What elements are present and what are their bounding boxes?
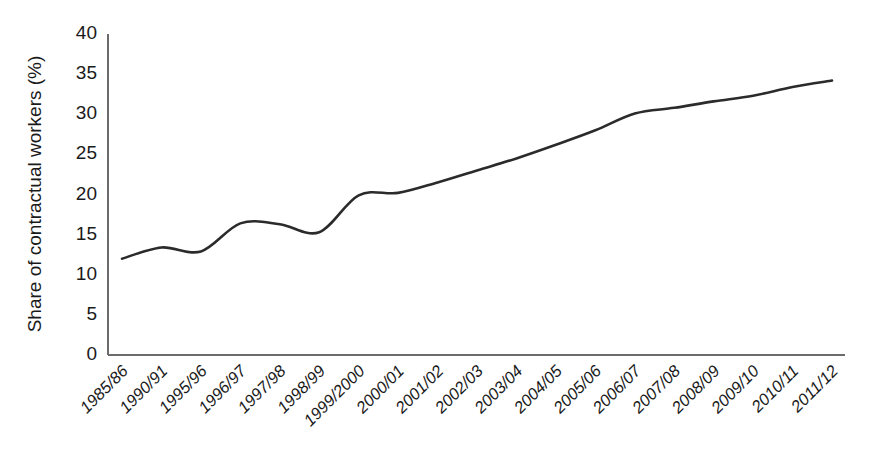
chart-container: Share of contractual workers (%) 0510152… — [0, 0, 878, 463]
x-axis-tick-labels: 1985/861990/911995/961996/971997/981998/… — [76, 361, 841, 429]
y-tick-label: 25 — [76, 142, 97, 163]
axis-spines — [108, 34, 845, 355]
y-tick-label: 30 — [76, 102, 97, 123]
y-tick-label: 10 — [76, 263, 97, 284]
y-tick-label: 40 — [76, 22, 97, 43]
y-axis-title-group: Share of contractual workers (%) — [24, 56, 45, 333]
y-tick-label: 20 — [76, 183, 97, 204]
y-axis-tick-labels: 0510152025303540 — [76, 22, 97, 364]
y-tick-label: 5 — [86, 303, 97, 324]
y-tick-label: 15 — [76, 223, 97, 244]
line-chart: Share of contractual workers (%) 0510152… — [0, 0, 878, 463]
y-tick-label: 35 — [76, 62, 97, 83]
data-series-group — [122, 81, 832, 259]
series-line — [122, 81, 832, 259]
y-axis-title: Share of contractual workers (%) — [24, 56, 45, 333]
y-tick-label: 0 — [86, 343, 97, 364]
